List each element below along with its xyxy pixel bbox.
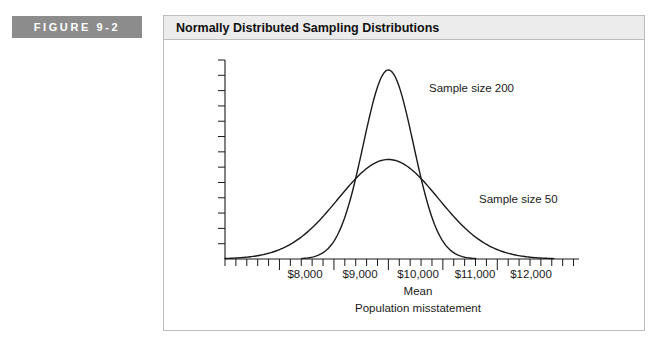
x-axis-label-mean: Mean <box>404 285 433 297</box>
x-tick-label-10000: $10,000 <box>397 268 439 280</box>
figure-number-tab: FIGURE 9-2 <box>12 16 142 38</box>
x-tick-label-11000: $11,000 <box>455 268 496 280</box>
chart-plot-area: Sample size 200 Sample size 50 $8,000 $9… <box>164 40 644 330</box>
curve-sample-size-200 <box>302 70 476 259</box>
x-tick-label-8000: $8,000 <box>287 268 322 280</box>
x-axis-label-population-misstatement: Population misstatement <box>355 302 481 314</box>
figure-title: Normally Distributed Sampling Distributi… <box>164 21 439 35</box>
x-tick-label-9000: $9,000 <box>342 268 377 280</box>
annotation-sample-size-50: Sample size 50 <box>479 193 558 205</box>
y-axis-ticks <box>218 60 225 244</box>
figure-number-label: FIGURE 9-2 <box>34 21 121 33</box>
figure-title-bar: Normally Distributed Sampling Distributi… <box>164 16 644 40</box>
annotation-sample-size-200: Sample size 200 <box>429 82 514 94</box>
x-tick-label-12000: $12,000 <box>510 268 552 280</box>
figure-panel: Normally Distributed Sampling Distributi… <box>163 15 645 331</box>
curve-sample-size-50 <box>225 160 554 259</box>
